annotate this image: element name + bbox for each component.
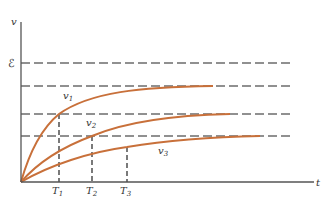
y-axis-label: v bbox=[11, 16, 17, 27]
T2-tick-label: T2 bbox=[86, 185, 98, 198]
emf-label: ℰ bbox=[8, 57, 15, 70]
x-axis-label: t bbox=[316, 177, 321, 188]
v1-curve-label: v1 bbox=[63, 90, 73, 103]
charging-curves-chart: v t ℰ T1 T2 T3 v1 v2 v3 bbox=[0, 0, 327, 206]
curves bbox=[21, 86, 260, 182]
T1-tick-label: T1 bbox=[52, 185, 63, 198]
v2-curve-label: v2 bbox=[86, 117, 97, 130]
v3-curve-label: v3 bbox=[158, 145, 169, 158]
chart-svg: v t ℰ T1 T2 T3 v1 v2 v3 bbox=[0, 0, 327, 206]
axes bbox=[21, 22, 314, 182]
v3-curve bbox=[21, 136, 260, 182]
dashed-levels bbox=[21, 63, 294, 136]
T3-tick-label: T3 bbox=[120, 185, 132, 198]
